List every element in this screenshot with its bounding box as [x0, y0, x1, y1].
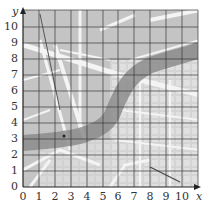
svg-text:2: 2 [11, 148, 18, 161]
svg-text:10: 10 [175, 190, 189, 203]
y-tick-labels: 0 1 2 3 4 5 6 7 8 9 10 y [4, 5, 19, 193]
svg-text:8: 8 [147, 190, 154, 203]
map-figure: 0 1 2 3 4 5 6 7 8 9 10 x 0 1 2 3 4 5 6 7… [0, 0, 208, 208]
svg-text:3: 3 [68, 190, 75, 203]
svg-text:10: 10 [4, 20, 18, 33]
svg-text:5: 5 [11, 100, 18, 113]
svg-text:9: 9 [163, 190, 170, 203]
svg-text:6: 6 [115, 190, 122, 203]
svg-text:6: 6 [11, 84, 18, 97]
svg-text:4: 4 [84, 190, 91, 203]
y-axis-label: y [11, 5, 19, 18]
svg-text:4: 4 [11, 116, 18, 129]
marked-point [63, 135, 66, 138]
x-tick-labels: 0 1 2 3 4 5 6 7 8 9 10 x [20, 190, 203, 203]
svg-text:7: 7 [11, 68, 18, 81]
svg-text:0: 0 [11, 180, 18, 193]
svg-text:8: 8 [11, 52, 18, 65]
svg-text:1: 1 [36, 190, 43, 203]
svg-text:1: 1 [11, 164, 18, 177]
svg-text:9: 9 [11, 36, 18, 49]
x-axis-label: x [196, 190, 203, 203]
svg-text:3: 3 [11, 132, 18, 145]
svg-text:7: 7 [131, 190, 138, 203]
svg-text:0: 0 [20, 190, 27, 203]
svg-text:2: 2 [52, 190, 59, 203]
map-background [23, 10, 200, 190]
svg-text:5: 5 [100, 190, 107, 203]
